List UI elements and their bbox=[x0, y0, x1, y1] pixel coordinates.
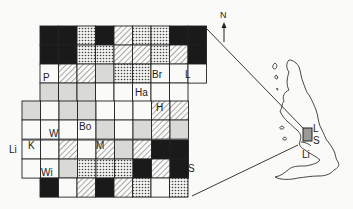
grid-cell-hatch bbox=[133, 140, 152, 159]
grid-cell-grey bbox=[96, 120, 115, 139]
grid-cell-white bbox=[41, 120, 60, 139]
grid-cell-hatch bbox=[96, 140, 115, 159]
grid-cell-black bbox=[96, 178, 115, 197]
grid-cells bbox=[22, 26, 207, 197]
grid-map bbox=[0, 0, 353, 209]
grid-cell-hatch bbox=[77, 178, 96, 197]
grid-cell-grey bbox=[170, 120, 189, 139]
grid-cell-white bbox=[188, 64, 207, 83]
grid-cell-hatch bbox=[152, 120, 171, 139]
grid-cell-black bbox=[133, 159, 152, 178]
grid-cell-white bbox=[59, 178, 78, 197]
britain-map bbox=[273, 60, 339, 179]
grid-cell-hatch bbox=[59, 140, 78, 159]
grid-cell-white bbox=[22, 159, 41, 178]
study-area-marker bbox=[303, 128, 312, 141]
grid-cell-black bbox=[40, 45, 59, 64]
grid-cell-cross bbox=[133, 178, 152, 197]
grid-cell-grey bbox=[77, 83, 96, 102]
grid-cell-grey bbox=[59, 101, 78, 120]
grid-cell-grey bbox=[22, 101, 41, 120]
grid-cell-white bbox=[151, 83, 170, 102]
grid-cell-hatch bbox=[59, 64, 78, 83]
grid-cell-white bbox=[151, 64, 170, 83]
grid-cell-white bbox=[41, 159, 60, 178]
grid-cell-black bbox=[40, 26, 59, 45]
grid-cell-cross bbox=[151, 45, 170, 64]
grid-cell-white bbox=[151, 178, 170, 197]
grid-cell-grey bbox=[78, 101, 97, 120]
grid-cell-white bbox=[59, 120, 78, 139]
grid-cell-white bbox=[40, 64, 59, 83]
grid-cell-hatch bbox=[114, 45, 133, 64]
grid-cell-hatch bbox=[114, 178, 133, 197]
grid-cell-black bbox=[152, 140, 171, 159]
grid-cell-grey bbox=[40, 83, 59, 102]
grid-cell-white bbox=[170, 83, 189, 102]
grid-cell-cross bbox=[78, 159, 97, 178]
grid-cell-white bbox=[41, 140, 60, 159]
grid-cell-black bbox=[170, 26, 189, 45]
grid-cell-white bbox=[115, 101, 134, 120]
grid-cell-black bbox=[59, 45, 78, 64]
grid-cell-hatch bbox=[170, 45, 189, 64]
grid-cell-cross bbox=[96, 159, 115, 178]
north-arrow-icon bbox=[222, 22, 227, 42]
grid-cell-black bbox=[96, 26, 115, 45]
grid-cell-black bbox=[59, 26, 78, 45]
grid-cell-white bbox=[96, 83, 115, 102]
grid-cell-cross bbox=[115, 159, 134, 178]
grid-cell-hatch bbox=[114, 26, 133, 45]
grid-cell-grey bbox=[59, 83, 78, 102]
grid-cell-cross bbox=[133, 26, 152, 45]
grid-cell-white bbox=[114, 83, 133, 102]
grid-cell-white bbox=[78, 120, 97, 139]
grid-cell-white bbox=[133, 101, 152, 120]
grid-cell-cross bbox=[133, 64, 152, 83]
grid-cell-white bbox=[22, 140, 41, 159]
grid-cell-white bbox=[170, 64, 189, 83]
grid-cell-grey bbox=[115, 140, 134, 159]
grid-cell-white bbox=[41, 101, 60, 120]
leader-line-top bbox=[206, 28, 303, 128]
grid-cell-black bbox=[170, 140, 189, 159]
grid-cell-black bbox=[40, 178, 59, 197]
grid-cell-grey bbox=[96, 64, 115, 83]
grid-cell-white bbox=[22, 120, 41, 139]
grid-cell-hatch bbox=[152, 159, 171, 178]
grid-cell-grey bbox=[59, 159, 78, 178]
grid-cell-cross bbox=[77, 26, 96, 45]
grid-cell-black bbox=[188, 45, 207, 64]
grid-cell-cross bbox=[96, 45, 115, 64]
grid-cell-cross bbox=[170, 178, 189, 197]
grid-cell-cross bbox=[151, 26, 170, 45]
grid-cell-cross bbox=[114, 64, 133, 83]
grid-cell-cross bbox=[77, 45, 96, 64]
grid-cell-hatch bbox=[133, 45, 152, 64]
grid-cell-black bbox=[170, 159, 189, 178]
grid-cell-black bbox=[188, 26, 207, 45]
grid-cell-hatch bbox=[77, 64, 96, 83]
grid-cell-hatch bbox=[152, 101, 171, 120]
grid-cell-white bbox=[78, 140, 97, 159]
grid-cell-white bbox=[115, 120, 134, 139]
leader-line-bottom bbox=[192, 145, 298, 196]
grid-cell-white bbox=[133, 83, 152, 102]
grid-cell-hatch bbox=[170, 101, 189, 120]
grid-cell-grey bbox=[133, 120, 152, 139]
grid-cell-white bbox=[96, 101, 115, 120]
